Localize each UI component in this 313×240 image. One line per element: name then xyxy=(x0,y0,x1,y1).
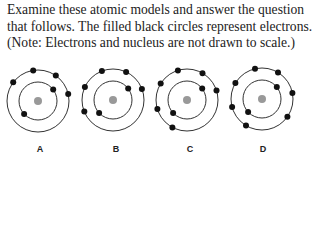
outer-electron xyxy=(200,70,206,76)
atom-model-a xyxy=(7,67,71,132)
outer-electron xyxy=(82,84,88,90)
atom-model-b xyxy=(81,68,145,131)
outer-electron xyxy=(229,104,235,110)
outer-electron xyxy=(99,68,105,74)
outer-electron xyxy=(158,81,164,87)
atom-model-c xyxy=(154,67,219,131)
inner-electron xyxy=(245,109,251,115)
model-label-c: C xyxy=(180,144,200,154)
nucleus xyxy=(258,95,266,103)
outer-electron xyxy=(123,69,129,75)
nucleus xyxy=(34,97,42,105)
inner-electron xyxy=(274,84,280,90)
outer-electron xyxy=(232,80,238,86)
inner-electron xyxy=(199,86,205,92)
outer-electron xyxy=(81,109,87,115)
inner-electron xyxy=(170,110,176,116)
inner-electron xyxy=(96,110,102,116)
outer-electron xyxy=(139,86,145,92)
model-label-a: A xyxy=(30,144,50,154)
outer-electron xyxy=(214,87,220,93)
model-label-b: B xyxy=(106,144,126,154)
outer-electron xyxy=(275,69,281,75)
outer-electron xyxy=(284,114,290,120)
model-label-d: D xyxy=(253,144,273,154)
outer-electron xyxy=(30,67,36,73)
outer-electron xyxy=(65,91,71,97)
nucleus xyxy=(109,96,117,104)
inner-electron xyxy=(125,86,131,92)
outer-electron xyxy=(169,124,175,130)
outer-electron xyxy=(175,67,181,73)
outer-electron xyxy=(252,66,258,72)
outer-electron xyxy=(289,90,295,96)
nucleus xyxy=(183,96,191,104)
outer-electron xyxy=(10,79,16,85)
atom-model-d xyxy=(229,66,295,130)
inner-electron xyxy=(50,87,56,93)
inner-electron xyxy=(21,111,27,117)
outer-electron xyxy=(243,123,249,129)
outer-electron xyxy=(53,73,59,79)
outer-electron xyxy=(154,106,160,112)
